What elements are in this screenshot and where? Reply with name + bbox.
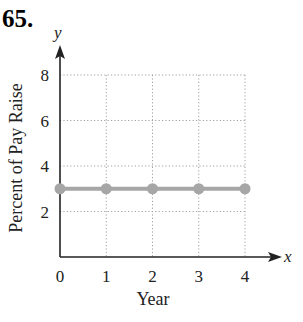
data-point xyxy=(147,183,158,194)
tick-labels: 012342468 xyxy=(41,66,250,286)
y-tick-label: 2 xyxy=(41,203,50,222)
data-point xyxy=(55,183,66,194)
x-tick-label: 4 xyxy=(241,267,250,286)
data-point xyxy=(193,183,204,194)
data-series xyxy=(55,183,251,194)
grid xyxy=(60,75,245,257)
axes xyxy=(55,45,282,262)
y-tick-label: 8 xyxy=(41,66,50,85)
x-tick-label: 3 xyxy=(195,267,204,286)
problem-number: 65. xyxy=(2,5,33,32)
x-axis-label: Year xyxy=(136,289,169,309)
x-axis-name: x xyxy=(283,247,292,266)
y-axis-name: y xyxy=(52,23,62,42)
data-point xyxy=(240,183,251,194)
y-tick-label: 6 xyxy=(41,112,50,131)
x-tick-label: 1 xyxy=(102,267,111,286)
chart: 65. y x Percent of Pay Raise Year 012342… xyxy=(0,0,303,322)
data-point xyxy=(101,183,112,194)
y-axis-label: Percent of Pay Raise xyxy=(6,83,26,232)
y-tick-label: 4 xyxy=(41,157,50,176)
x-tick-label: 0 xyxy=(56,267,65,286)
x-tick-label: 2 xyxy=(148,267,157,286)
